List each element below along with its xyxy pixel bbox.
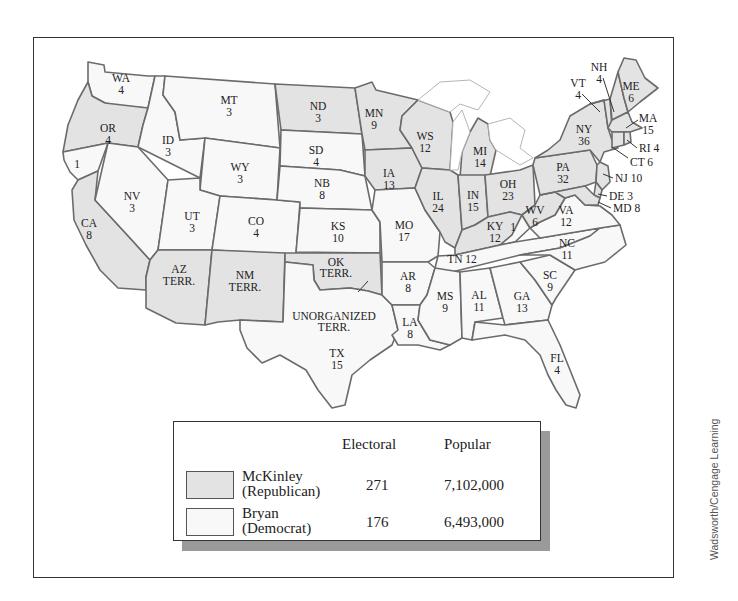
state-ct — [612, 132, 624, 148]
legend-row-democrat: Bryan (Democrat) 176 6,493,000 — [174, 506, 540, 544]
svg-text:CT 6: CT 6 — [630, 156, 653, 168]
state-ri — [624, 132, 631, 145]
legend-header-electoral: Electoral — [342, 436, 396, 453]
candidate-name: McKinley (Republican) — [242, 469, 320, 499]
state-fl — [472, 320, 580, 408]
svg-text:IL24: IL24 — [432, 190, 444, 214]
electoral-votes: 271 — [366, 477, 389, 494]
legend-row-republican: McKinley (Republican) 271 7,102,000 — [174, 469, 540, 507]
svg-text:KS10: KS10 — [331, 220, 346, 244]
svg-text:NH4: NH4 — [591, 61, 608, 85]
republican-swatch — [186, 471, 234, 499]
svg-text:MA15: MA15 — [639, 112, 658, 136]
svg-text:1: 1 — [74, 158, 80, 170]
leader-ct — [612, 147, 628, 158]
svg-text:AL11: AL11 — [471, 289, 486, 313]
svg-text:IN15: IN15 — [467, 189, 480, 213]
state-mt — [163, 76, 280, 148]
svg-text:IA13: IA13 — [383, 167, 396, 191]
state-az — [146, 250, 212, 325]
svg-text:PA32: PA32 — [556, 161, 570, 185]
popular-votes: 6,493,000 — [444, 514, 504, 531]
popular-votes: 7,102,000 — [444, 477, 504, 494]
svg-text:NJ 10: NJ 10 — [615, 172, 642, 184]
svg-text:1: 1 — [510, 221, 516, 233]
svg-text:RI 4: RI 4 — [639, 142, 659, 154]
electoral-votes: 176 — [366, 514, 389, 531]
legend-header-popular: Popular — [444, 436, 491, 453]
image-credit: Wadsworth/Cengage Learning — [708, 419, 720, 560]
democrat-swatch — [186, 508, 234, 536]
svg-text:MD 8: MD 8 — [613, 202, 640, 214]
svg-text:DE 3: DE 3 — [609, 190, 633, 202]
svg-text:VT4: VT4 — [570, 77, 585, 101]
svg-text:TN 12: TN 12 — [447, 253, 477, 265]
leader-ri — [627, 140, 637, 148]
candidate-name: Bryan (Democrat) — [242, 506, 311, 536]
svg-text:MI14: MI14 — [473, 145, 487, 169]
legend: Electoral Popular McKinley (Republican) … — [173, 421, 541, 541]
